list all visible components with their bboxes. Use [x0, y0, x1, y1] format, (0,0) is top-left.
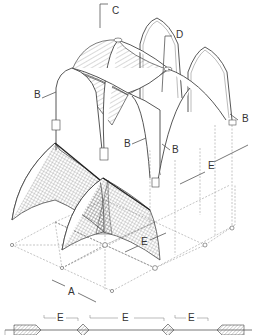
rib-vault-diagram: C D B B B B E E A E E E	[0, 0, 258, 335]
label-a: A	[68, 286, 75, 297]
label-b-right-top: B	[242, 113, 249, 124]
lower-vault-webs	[12, 143, 160, 260]
label-e-section-3: E	[188, 312, 195, 323]
label-c: C	[112, 5, 119, 16]
label-b-mid-left: B	[124, 138, 131, 149]
label-e-mid: E	[141, 236, 148, 247]
label-e-section-2: E	[122, 312, 129, 323]
label-d: D	[176, 29, 183, 40]
label-e-section-1: E	[57, 312, 64, 323]
label-b-left: B	[34, 89, 41, 100]
label-e-right: E	[208, 160, 215, 171]
label-b-mid-right: B	[172, 144, 179, 155]
